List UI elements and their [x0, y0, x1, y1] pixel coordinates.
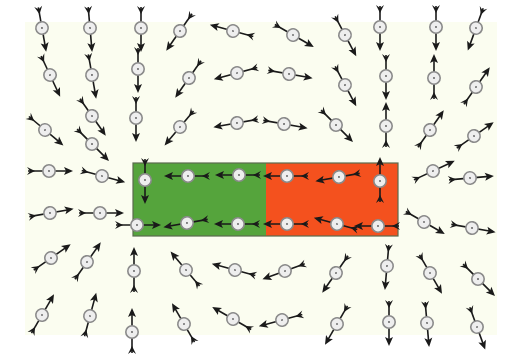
- arrowhead-icon: [322, 335, 333, 347]
- arrow-tail-icon: [185, 11, 196, 22]
- field-diagram-canvas: [0, 0, 519, 360]
- magnetic-field-diagram: [0, 0, 519, 360]
- arrow-tail-icon: [477, 6, 487, 16]
- arrow-tail-icon: [188, 334, 199, 345]
- arrow-tail-icon: [84, 6, 93, 15]
- arrowhead-icon: [478, 340, 489, 351]
